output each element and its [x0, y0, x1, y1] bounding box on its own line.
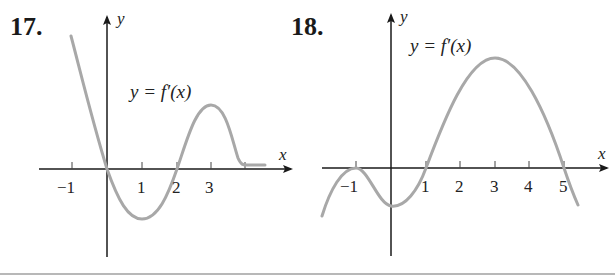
x-axis-label-17: x	[278, 145, 287, 164]
x-ticks-18	[356, 161, 564, 168]
tick-label-4: 4	[524, 177, 533, 196]
x-ticks-17	[72, 162, 245, 169]
function-label-17: y = f′(x)	[128, 81, 191, 103]
x-axis-label-18: x	[597, 144, 606, 163]
tick-label-5: 5	[559, 177, 568, 196]
tick-label-3: 3	[490, 177, 499, 196]
chart-17: −1 1 2 3 x y y = f′(x)	[39, 9, 291, 257]
tick-label-1: 1	[421, 177, 430, 196]
graphs-canvas: −1 1 2 3 x y y = f′(x) −1 1 2 3 4 5	[0, 0, 615, 279]
tick-label-3: 3	[205, 178, 214, 197]
function-label-18: y = f′(x)	[408, 35, 471, 57]
tick-label-1: 1	[137, 178, 146, 197]
tick-label-neg1: −1	[340, 177, 358, 196]
divider-line	[0, 273, 615, 275]
derivative-curve-18	[322, 58, 578, 216]
y-axis-label-17: y	[115, 9, 125, 28]
tick-label-neg1: −1	[57, 178, 75, 197]
tick-label-2: 2	[172, 178, 181, 197]
derivative-curve-17	[71, 36, 265, 219]
chart-18: −1 1 2 3 4 5 x y y = f′(x)	[322, 7, 607, 256]
tick-label-2: 2	[455, 177, 464, 196]
y-axis-label-18: y	[398, 7, 408, 26]
